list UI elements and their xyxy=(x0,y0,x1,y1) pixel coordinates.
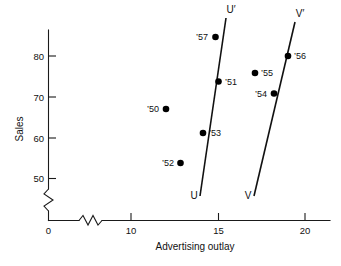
data-point-label-54: ’54 xyxy=(255,89,267,99)
y-tick-label-70: 70 xyxy=(33,92,44,103)
y-tick-label-50: 50 xyxy=(33,173,44,184)
x-tick-label-10: 10 xyxy=(126,225,137,236)
data-point-55 xyxy=(252,70,259,77)
data-point-56 xyxy=(285,53,292,60)
y-axis-title: Sales xyxy=(14,116,25,141)
data-point-54 xyxy=(271,90,278,97)
x-axis-title: Advertising outlay xyxy=(156,241,235,252)
line-label-u-bottom: U xyxy=(190,190,197,201)
x-axis-break-zigzag xyxy=(79,216,102,226)
line-label-u-top: U′ xyxy=(226,4,235,15)
x-tick-label-20: 20 xyxy=(300,225,311,236)
trend-line-u xyxy=(200,18,226,196)
data-point-label-53: ’53 xyxy=(209,128,221,138)
data-point-label-51: ’51 xyxy=(225,77,237,87)
x-tick-label-15: 15 xyxy=(213,225,224,236)
data-point-label-50: ’50 xyxy=(147,104,159,114)
x-tick-label-0: 0 xyxy=(46,225,51,236)
data-point-label-52: ’52 xyxy=(162,158,174,168)
data-point-52 xyxy=(177,160,184,167)
data-point-50 xyxy=(163,106,170,113)
trend-line-v xyxy=(254,22,295,196)
y-axis-break-zigzag xyxy=(44,189,53,211)
data-point-label-56: ’56 xyxy=(294,51,306,61)
data-point-label-55: ’55 xyxy=(261,68,273,78)
line-label-v-top: V′ xyxy=(296,8,305,19)
data-point-53 xyxy=(200,130,207,137)
scatter-chart-figure: 80 70 60 50 0 10 15 20 Sales Advertising… xyxy=(0,0,341,266)
y-tick-label-80: 80 xyxy=(33,51,44,62)
y-tick-label-60: 60 xyxy=(33,133,44,144)
data-point-51 xyxy=(215,78,222,85)
data-point-57 xyxy=(212,34,219,41)
chart-canvas: 80 70 60 50 0 10 15 20 Sales Advertising… xyxy=(0,0,341,266)
data-point-label-57: ’57 xyxy=(196,32,208,42)
line-label-v-bottom: V xyxy=(245,190,252,201)
